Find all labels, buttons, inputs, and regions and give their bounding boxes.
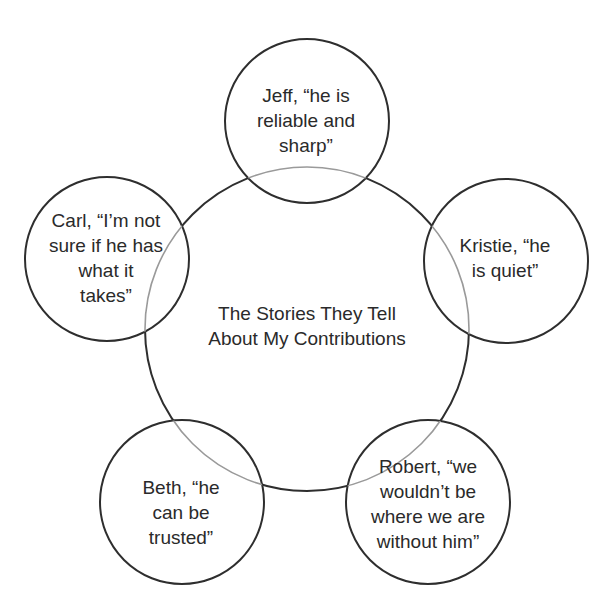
node-label-robert: Robert, “we wouldn’t be where we are wit… [371, 454, 485, 554]
node-label-jeff: Jeff, “he is reliable and sharp” [257, 83, 355, 158]
node-label-beth: Beth, “he can be trusted” [142, 475, 219, 550]
central-title: The Stories They Tell About My Contribut… [208, 301, 406, 351]
node-label-kristie: Kristie, “he is quiet” [460, 233, 551, 283]
node-label-carl: Carl, “I’m not sure if he has what it ta… [49, 208, 163, 308]
